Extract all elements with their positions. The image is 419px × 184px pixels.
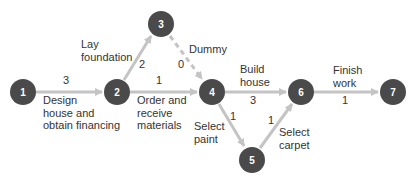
- network-diagram: 1 2 3 4 5 6 7: [0, 0, 419, 184]
- node-3-label: 3: [158, 19, 164, 30]
- activity-label-order: Order and receive materials: [137, 94, 187, 132]
- duration-2-3: 2: [139, 58, 145, 70]
- duration-4-5: 1: [230, 110, 236, 122]
- activity-label-build: Build house: [240, 63, 270, 88]
- activity-label-finish: Finish work: [333, 64, 362, 89]
- activity-label-carpet: Select carpet: [279, 126, 310, 151]
- duration-3-4: 0: [178, 58, 184, 70]
- node-7-label: 7: [390, 87, 396, 98]
- duration-4-6: 3: [250, 94, 256, 106]
- activity-label-foundation: Lay foundation: [81, 38, 132, 63]
- activity-label-dummy: Dummy: [189, 43, 227, 56]
- duration-1-2: 3: [63, 74, 69, 86]
- activity-label-paint: Select paint: [194, 120, 225, 145]
- node-1-label: 1: [20, 87, 26, 98]
- duration-6-7: 1: [342, 94, 348, 106]
- duration-5-6: 1: [268, 114, 274, 126]
- duration-2-4: 1: [156, 74, 162, 86]
- node-5-label: 5: [249, 155, 255, 166]
- activity-label-design: Design house and obtain financing: [43, 94, 120, 132]
- node-4-label: 4: [209, 87, 215, 98]
- node-6-label: 6: [298, 87, 304, 98]
